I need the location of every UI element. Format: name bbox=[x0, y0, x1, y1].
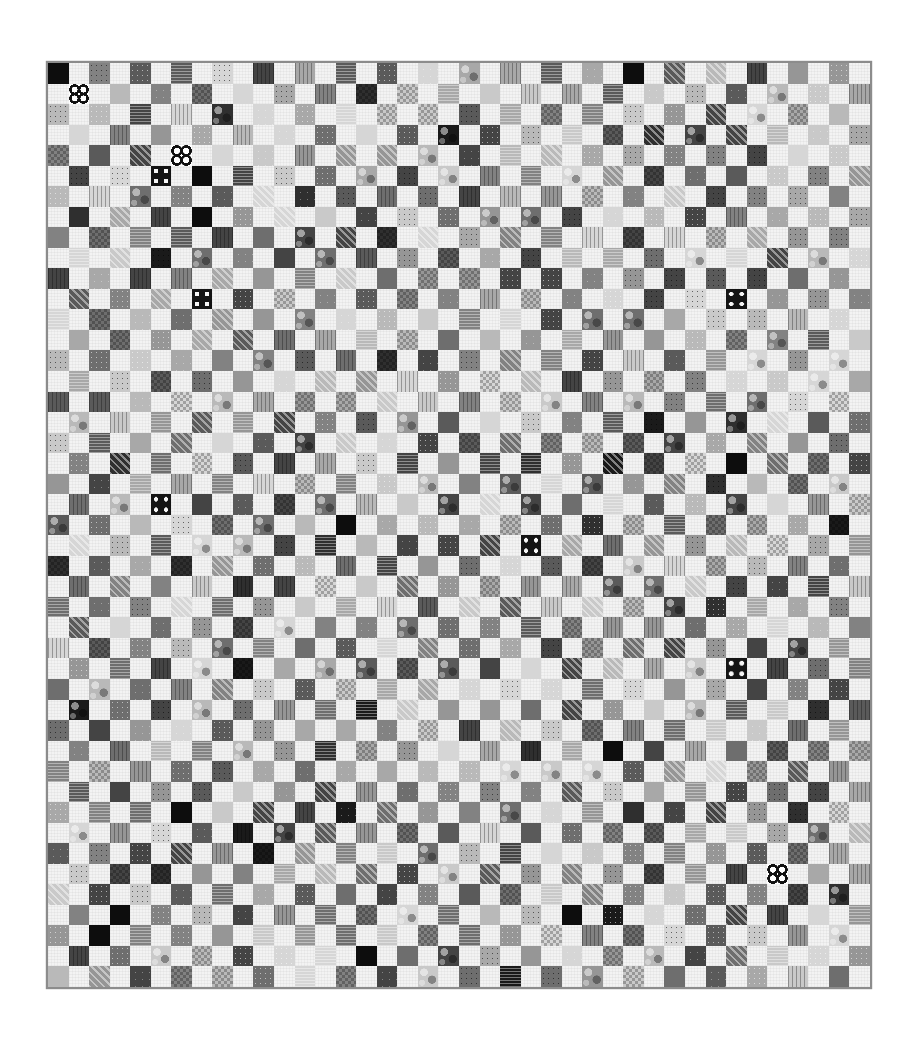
printed-fabric-square bbox=[747, 186, 768, 207]
printed-fabric-square bbox=[212, 309, 233, 330]
white-square bbox=[274, 268, 295, 289]
white-square bbox=[685, 638, 706, 659]
white-square bbox=[562, 104, 583, 125]
fabric-square-solidblack bbox=[726, 453, 747, 474]
white-square bbox=[315, 104, 336, 125]
printed-fabric-square bbox=[685, 289, 706, 310]
white-square bbox=[623, 823, 644, 844]
white-square bbox=[767, 227, 788, 248]
white-square bbox=[459, 207, 480, 228]
white-square bbox=[48, 412, 69, 433]
white-square bbox=[110, 433, 131, 454]
printed-fabric-square bbox=[541, 761, 562, 782]
white-square bbox=[315, 145, 336, 166]
printed-fabric-square bbox=[582, 309, 603, 330]
white-square bbox=[192, 186, 213, 207]
white-square bbox=[644, 227, 665, 248]
white-square bbox=[480, 433, 501, 454]
printed-fabric-square bbox=[438, 658, 459, 679]
printed-fabric-square bbox=[562, 658, 583, 679]
white-square bbox=[130, 494, 151, 515]
printed-fabric-square bbox=[356, 658, 377, 679]
printed-fabric-square bbox=[623, 761, 644, 782]
printed-fabric-square bbox=[849, 125, 870, 146]
white-square bbox=[829, 453, 850, 474]
white-square bbox=[849, 309, 870, 330]
white-square bbox=[315, 433, 336, 454]
white-square bbox=[110, 186, 131, 207]
white-square bbox=[130, 741, 151, 762]
printed-fabric-square bbox=[664, 679, 685, 700]
white-square bbox=[603, 843, 624, 864]
white-square bbox=[212, 823, 233, 844]
printed-fabric-square bbox=[767, 207, 788, 228]
printed-fabric-square bbox=[747, 884, 768, 905]
printed-fabric-square bbox=[438, 617, 459, 638]
printed-fabric-square bbox=[69, 946, 90, 967]
printed-fabric-square bbox=[274, 782, 295, 803]
printed-fabric-square bbox=[480, 535, 501, 556]
white-square bbox=[274, 556, 295, 577]
white-square bbox=[171, 658, 192, 679]
printed-fabric-square bbox=[849, 166, 870, 187]
white-square bbox=[397, 761, 418, 782]
white-square bbox=[253, 946, 274, 967]
white-square bbox=[500, 782, 521, 803]
white-square bbox=[829, 905, 850, 926]
printed-fabric-square bbox=[480, 700, 501, 721]
white-square bbox=[438, 761, 459, 782]
printed-fabric-square bbox=[623, 966, 644, 987]
white-square bbox=[726, 638, 747, 659]
white-square bbox=[336, 823, 357, 844]
white-square bbox=[849, 843, 870, 864]
printed-fabric-square bbox=[603, 946, 624, 967]
white-square bbox=[562, 145, 583, 166]
printed-fabric-square bbox=[377, 104, 398, 125]
white-square bbox=[562, 186, 583, 207]
printed-fabric-square bbox=[295, 433, 316, 454]
white-square bbox=[110, 474, 131, 495]
printed-fabric-square bbox=[377, 186, 398, 207]
white-square bbox=[521, 350, 542, 371]
white-square bbox=[685, 802, 706, 823]
printed-fabric-square bbox=[706, 104, 727, 125]
printed-fabric-square bbox=[315, 166, 336, 187]
printed-fabric-square bbox=[233, 125, 254, 146]
printed-fabric-square bbox=[767, 823, 788, 844]
white-square bbox=[274, 966, 295, 987]
white-square bbox=[253, 658, 274, 679]
printed-fabric-square bbox=[192, 864, 213, 885]
printed-fabric-square bbox=[582, 679, 603, 700]
printed-fabric-square bbox=[685, 864, 706, 885]
white-square bbox=[315, 925, 336, 946]
printed-fabric-square bbox=[623, 145, 644, 166]
printed-fabric-square bbox=[336, 474, 357, 495]
printed-fabric-square bbox=[623, 474, 644, 495]
printed-fabric-square bbox=[480, 946, 501, 967]
printed-fabric-square bbox=[89, 104, 110, 125]
white-square bbox=[253, 905, 274, 926]
white-square bbox=[685, 145, 706, 166]
printed-fabric-square bbox=[829, 392, 850, 413]
printed-fabric-square bbox=[767, 658, 788, 679]
white-square bbox=[829, 823, 850, 844]
printed-fabric-square bbox=[48, 309, 69, 330]
white-square bbox=[315, 761, 336, 782]
white-square bbox=[151, 227, 172, 248]
white-square bbox=[541, 125, 562, 146]
white-square bbox=[788, 535, 809, 556]
white-square bbox=[706, 576, 727, 597]
printed-fabric-square bbox=[623, 597, 644, 618]
printed-fabric-square bbox=[89, 63, 110, 84]
printed-fabric-square bbox=[130, 843, 151, 864]
printed-fabric-square bbox=[171, 679, 192, 700]
printed-fabric-square bbox=[685, 946, 706, 967]
printed-fabric-square bbox=[685, 412, 706, 433]
printed-fabric-square bbox=[767, 905, 788, 926]
white-square bbox=[644, 884, 665, 905]
printed-fabric-square bbox=[664, 597, 685, 618]
white-square bbox=[582, 371, 603, 392]
printed-fabric-square bbox=[582, 638, 603, 659]
printed-fabric-square bbox=[808, 330, 829, 351]
printed-fabric-square bbox=[685, 125, 706, 146]
